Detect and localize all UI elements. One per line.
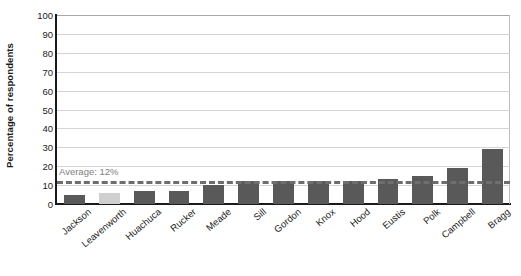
bar-sill bbox=[238, 181, 259, 204]
bar-campbell bbox=[447, 168, 468, 204]
bar-meade bbox=[203, 185, 224, 204]
x-axis-tick-label: Eustis bbox=[380, 206, 407, 231]
y-axis-tick-label: 80 bbox=[23, 47, 53, 58]
x-axis-tick-label: Huachuca bbox=[123, 206, 163, 242]
y-axis-tick-label: 10 bbox=[23, 180, 53, 191]
x-axis-tick-label: Sill bbox=[251, 206, 268, 223]
bar-leavenworth bbox=[99, 193, 120, 204]
y-axis-title: Percentage of respondents bbox=[0, 0, 18, 210]
x-axis-tick-label: Knox bbox=[314, 206, 338, 228]
y-axis-tick-label: 0 bbox=[23, 199, 53, 210]
plot-area: Average: 12% bbox=[57, 15, 510, 204]
y-axis-tick-label: 60 bbox=[23, 85, 53, 96]
x-axis-tick-label: Polk bbox=[421, 206, 442, 226]
y-axis-title-label: Percentage of respondents bbox=[4, 43, 15, 168]
x-axis-tick-labels: JacksonLeavenworthHuachucaRuckerMeadeSil… bbox=[57, 206, 510, 276]
y-axis-tick-label: 40 bbox=[23, 123, 53, 134]
x-axis-tick-label: Meade bbox=[204, 206, 233, 233]
bar-chart: Percentage of respondents 10090807060504… bbox=[0, 0, 521, 276]
y-axis-tick-label: 70 bbox=[23, 66, 53, 77]
y-axis-tick-label: 90 bbox=[23, 28, 53, 39]
average-line-label: Average: 12% bbox=[59, 166, 119, 177]
y-axis-tick-label: 20 bbox=[23, 161, 53, 172]
average-line bbox=[57, 181, 510, 184]
y-axis-tick-label: 30 bbox=[23, 142, 53, 153]
bars bbox=[57, 15, 510, 204]
y-axis-tick-label: 100 bbox=[23, 10, 53, 21]
bar-polk bbox=[412, 176, 433, 204]
y-axis-tick-labels: 1009080706050403020100 bbox=[19, 15, 53, 204]
bar-bragg bbox=[482, 149, 503, 204]
bar-huachuca bbox=[134, 191, 155, 204]
bar-jackson bbox=[64, 195, 85, 204]
y-axis-tick-label: 50 bbox=[23, 104, 53, 115]
x-axis-tick-label: Rucker bbox=[168, 206, 198, 234]
bar-gordon bbox=[273, 181, 294, 204]
bar-hood bbox=[343, 181, 364, 204]
x-axis-tick-label: Hood bbox=[348, 206, 372, 229]
x-axis-tick-label: Campbell bbox=[439, 206, 477, 240]
x-axis-tick-label: Bragg bbox=[485, 206, 511, 231]
bar-knox bbox=[308, 181, 329, 204]
x-axis-tick-label: Gordon bbox=[271, 206, 302, 235]
bar-rucker bbox=[169, 191, 190, 204]
